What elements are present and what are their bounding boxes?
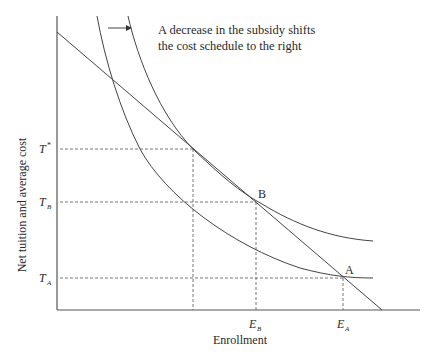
- x-tick-e-a: E A: [336, 317, 350, 333]
- y-axis-label: Net tuition and average cost: [15, 137, 29, 272]
- svg-text:A: A: [46, 279, 52, 287]
- svg-text:A: A: [344, 325, 350, 333]
- y-tick-t-star: T *: [39, 141, 51, 156]
- svg-text:T: T: [39, 195, 47, 209]
- x-axis-label: Enrollment: [213, 333, 268, 347]
- svg-text:B: B: [257, 325, 262, 333]
- svg-text:*: *: [47, 141, 51, 150]
- point-a-label: A: [345, 263, 354, 277]
- diagram-canvas: A decrease in the subsidy shifts the cos…: [0, 0, 434, 361]
- y-tick-t-a: T A: [39, 271, 52, 287]
- original-cost-curve: [97, 16, 373, 278]
- annotation-line-1: A decrease in the subsidy shifts: [158, 23, 315, 37]
- x-tick-e-b: E B: [248, 317, 262, 333]
- tuition-line: [57, 32, 382, 310]
- svg-text:T: T: [39, 142, 47, 156]
- svg-text:T: T: [39, 271, 47, 285]
- svg-text:B: B: [47, 203, 52, 211]
- svg-text:E: E: [248, 317, 257, 331]
- point-b-label: B: [258, 187, 266, 201]
- annotation-line-2: the cost schedule to the right: [158, 39, 302, 53]
- y-tick-t-b: T B: [39, 195, 52, 211]
- svg-text:E: E: [336, 317, 345, 331]
